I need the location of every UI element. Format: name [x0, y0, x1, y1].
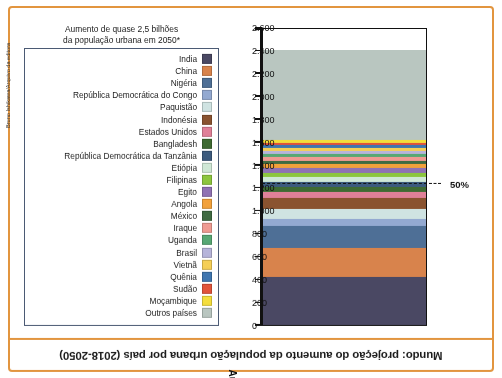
- bar-segment: [263, 168, 426, 172]
- legend-item-label: República Democrática do Congo: [73, 90, 197, 100]
- legend-swatch-icon: [202, 296, 212, 306]
- legend-item-label: Estados Unidos: [139, 127, 197, 137]
- legend-item[interactable]: Brasil: [31, 247, 212, 259]
- bar-segment: [263, 148, 426, 151]
- fifty-percent-label: 50%: [450, 179, 469, 190]
- legend-swatch-icon: [202, 235, 212, 245]
- axis-tick-label: 1.800: [252, 115, 275, 125]
- legend-swatch-icon: [202, 175, 212, 185]
- axis-tick-label: 1.200: [252, 183, 275, 193]
- plot-area: [262, 28, 427, 326]
- legend-item-label: Iraque: [173, 223, 197, 233]
- legend-item[interactable]: China: [31, 65, 212, 77]
- legend-item-label: China: [175, 66, 197, 76]
- axis-tick-label: 600: [252, 252, 267, 262]
- chart-subtitle-line-1: Aumento de quase 2,5 bilhões: [24, 24, 219, 35]
- image-credit: Bruno Ishikawa/Arquivo da editora: [5, 43, 11, 128]
- axis-tick-label: 400: [252, 275, 267, 285]
- legend-swatch-icon: [202, 151, 212, 161]
- legend-swatch-icon: [202, 187, 212, 197]
- bar-segment: [263, 219, 426, 226]
- bar-segment: [263, 164, 426, 168]
- axis-tick-label: 1.000: [252, 206, 275, 216]
- legend-item[interactable]: México: [31, 210, 212, 222]
- legend-item[interactable]: Vietnã: [31, 259, 212, 271]
- legend-item-label: Bangladesh: [153, 139, 197, 149]
- legend-item-label: Paquistão: [160, 102, 197, 112]
- axis-tick-label: 200: [252, 298, 267, 308]
- bar-segment: [263, 50, 426, 140]
- page-title: Mundo: projeção do aumento da população …: [59, 350, 442, 362]
- legend-item[interactable]: Quênia: [31, 271, 212, 283]
- legend-swatch-icon: [202, 211, 212, 221]
- bar-segment: [263, 157, 426, 160]
- axis-tick-label: 2.400: [252, 46, 275, 56]
- axis-tick-label: 2.600: [252, 23, 275, 33]
- legend-swatch-icon: [202, 139, 212, 149]
- legend-item[interactable]: Outros países: [31, 307, 212, 319]
- legend-item[interactable]: República Democrática da Tanzânia: [31, 150, 212, 162]
- fifty-percent-leader: [429, 183, 441, 184]
- legend-item[interactable]: Egito: [31, 186, 212, 198]
- legend-item-label: Nigéria: [171, 78, 197, 88]
- legend-item[interactable]: Filipinas: [31, 174, 212, 186]
- legend-swatch-icon: [202, 272, 212, 282]
- axis-tick-label: 1.600: [252, 138, 275, 148]
- axis-tick-label: 1.400: [252, 161, 275, 171]
- legend-item-label: Uganda: [168, 235, 197, 245]
- legend-item-label: Brasil: [176, 248, 197, 258]
- legend-item-label: Indonésia: [161, 115, 197, 125]
- legend-swatch-icon: [202, 223, 212, 233]
- legend-swatch-icon: [202, 90, 212, 100]
- legend-item-label: Sudão: [173, 284, 197, 294]
- bar-segment: [263, 173, 426, 178]
- bar-segment: [263, 277, 426, 325]
- legend-item[interactable]: Iraque: [31, 222, 212, 234]
- bar-segment: [263, 143, 426, 146]
- value-axis: 02004006008001.0001.2001.4001.6001.8002.…: [260, 28, 262, 326]
- legend-item-label: Vietnã: [174, 260, 197, 270]
- legend-swatch-icon: [202, 115, 212, 125]
- legend-swatch-icon: [202, 163, 212, 173]
- legend-item-label: India: [179, 54, 197, 64]
- axis-title-y: Aumento da população urbana (em milhões): [227, 326, 238, 378]
- legend-list: IndiaChinaNigériaRepública Democrática d…: [31, 53, 212, 320]
- bar-segment: [263, 154, 426, 157]
- bar-segment: [263, 198, 426, 208]
- bar-segment: [263, 192, 426, 198]
- bar-segment: [263, 209, 426, 220]
- legend-item[interactable]: Moçambique: [31, 295, 212, 307]
- legend-item[interactable]: Estados Unidos: [31, 126, 212, 138]
- legend-swatch-icon: [202, 54, 212, 64]
- legend-item[interactable]: Paquistão: [31, 101, 212, 113]
- legend-swatch-icon: [202, 127, 212, 137]
- legend-item[interactable]: Sudão: [31, 283, 212, 295]
- bar-segment: [263, 161, 426, 165]
- bar-segment: [263, 187, 426, 192]
- bar-segment: [263, 151, 426, 154]
- legend-item[interactable]: Indonésia: [31, 113, 212, 125]
- chart-title-banner: Mundo: projeção do aumento da população …: [8, 338, 494, 372]
- legend-item[interactable]: Angola: [31, 198, 212, 210]
- legend-item[interactable]: República Democrática do Congo: [31, 89, 212, 101]
- legend-item-label: Quênia: [170, 272, 197, 282]
- legend: IndiaChinaNigériaRepública Democrática d…: [24, 48, 219, 326]
- legend-item[interactable]: India: [31, 53, 212, 65]
- axis-tick-label: 800: [252, 229, 267, 239]
- legend-item[interactable]: Etiópia: [31, 162, 212, 174]
- bar-segment: [263, 226, 426, 248]
- legend-item-label: México: [171, 211, 197, 221]
- legend-item[interactable]: Nigéria: [31, 77, 212, 89]
- legend-item-label: Etiópia: [172, 163, 197, 173]
- legend-item-label: Filipinas: [167, 175, 197, 185]
- axis-tick-label: 0: [252, 321, 257, 331]
- legend-item[interactable]: Uganda: [31, 234, 212, 246]
- legend-swatch-icon: [202, 66, 212, 76]
- legend-swatch-icon: [202, 102, 212, 112]
- stacked-bar: [262, 28, 427, 326]
- legend-item-label: República Democrática da Tanzânia: [64, 151, 197, 161]
- legend-swatch-icon: [202, 78, 212, 88]
- chart-subtitle: Aumento de quase 2,5 bilhões da populaçã…: [24, 24, 219, 45]
- fifty-percent-line: [262, 183, 427, 184]
- legend-item[interactable]: Bangladesh: [31, 138, 212, 150]
